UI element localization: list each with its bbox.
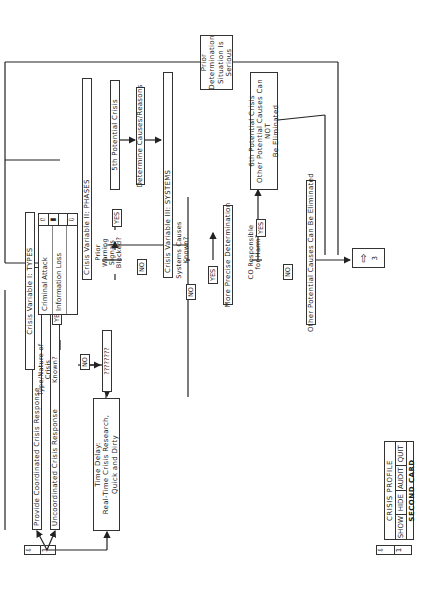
arrow-down-icon: ⇩ bbox=[25, 546, 41, 554]
yes-label-warning: YES bbox=[112, 209, 122, 227]
coordinated-response-label: Provide Coordinated Crisis Response bbox=[33, 387, 41, 526]
prior-det-line3: Situation Is bbox=[217, 41, 225, 84]
fifth-crisis-box: 5th Potential Crisis bbox=[110, 80, 120, 190]
decision-type-line3: Known? bbox=[52, 342, 59, 397]
decision-warning-line1: Prior Warning bbox=[95, 230, 109, 275]
decision-prior-warning: Prior Warning Signals Blocked? bbox=[95, 230, 124, 275]
variable-types-box: Crisis Variable I: TYPES bbox=[25, 212, 35, 370]
prior-det-line2: Determination bbox=[208, 35, 216, 89]
variable-phases-box: Crisis Variable II: PHASES bbox=[82, 78, 92, 280]
decision-systems-line2: Known? bbox=[183, 220, 190, 280]
sixth-crisis-line1: 6th Potential Crisis bbox=[248, 95, 256, 167]
variable-systems-box: Crisis Variable III: SYSTEMS bbox=[163, 72, 173, 278]
next-card-button[interactable]: ⇨ 3 bbox=[352, 248, 385, 268]
no-label-type: NO bbox=[80, 354, 90, 370]
fifth-crisis-label: 5th Potential Crisis bbox=[111, 99, 119, 171]
time-delay-line3: Quick and Dirty bbox=[111, 435, 119, 494]
variable-phases-label: Crisis Variable II: PHASES bbox=[83, 179, 91, 275]
flowchart-canvas: ⇩ 1 Provide Coordinated Crisis Response … bbox=[0, 0, 440, 590]
types-scrollbar[interactable]: ⇧ ▮ ⇩ bbox=[39, 214, 77, 226]
hide-button[interactable]: HIDE bbox=[396, 490, 406, 515]
scroll-down-icon[interactable]: ⇩ bbox=[67, 214, 77, 225]
prior-det-line1: Prior bbox=[200, 54, 208, 72]
arrow-down-icon: ⇩ bbox=[377, 546, 395, 554]
quit-button[interactable]: QUIT bbox=[396, 442, 406, 466]
sixth-crisis-line2: Other Potential Causes Can NOT bbox=[256, 73, 272, 189]
scroll-up-icon[interactable]: ⇧ bbox=[39, 214, 49, 225]
arrow-right-icon: ⇨ bbox=[358, 253, 371, 263]
scroll-thumb[interactable]: ▮ bbox=[49, 214, 59, 225]
yes-label-co: YES bbox=[256, 219, 266, 237]
time-delay-line1: Time Delay: bbox=[94, 442, 102, 487]
start-nav-button[interactable]: ⇩ 1 bbox=[24, 545, 56, 555]
decision-warning-line3: Blocked? bbox=[116, 230, 123, 275]
variable-types-label: Crisis Variable I: TYPES bbox=[26, 247, 34, 334]
types-list-item[interactable]: Criminal Attack bbox=[39, 226, 53, 314]
variable-systems-label: Crisis Variable III: SYSTEMS bbox=[164, 170, 172, 273]
prior-determination-box: Prior Determination Situation Is Serious bbox=[200, 35, 233, 90]
audit-button[interactable]: AUDIT bbox=[396, 466, 406, 491]
yes-label-systems: YES bbox=[208, 266, 218, 284]
eliminated-label: Other Potential Causes Can Be Eliminated bbox=[307, 173, 315, 332]
next-card-number: 3 bbox=[371, 256, 379, 261]
uncoordinated-response-label: Uncoordinated Crisis Response bbox=[51, 409, 59, 526]
card-nav-button[interactable]: ⇩ 1 bbox=[376, 545, 412, 555]
card-title: CRISIS PROFILE bbox=[385, 442, 396, 539]
no-label-systems: NO bbox=[186, 284, 196, 300]
crisis-profile-card: CRISIS PROFILE SHOW HIDE AUDIT QUIT SECO… bbox=[384, 441, 414, 540]
determine-causes-label: Determine Causes/Reasons bbox=[136, 84, 144, 187]
decision-type-nature: Type/Nature of Crisis Known? bbox=[38, 342, 59, 397]
no-label-warning: NO bbox=[137, 259, 147, 275]
determine-causes-box: Determine Causes/Reasons bbox=[136, 87, 145, 185]
prior-det-line4: Serious bbox=[225, 48, 233, 76]
types-list-item[interactable] bbox=[67, 226, 80, 314]
nav-number: 1 bbox=[41, 546, 56, 554]
sixth-crisis-box: 6th Potential Crisis Other Potential Cau… bbox=[250, 72, 278, 190]
types-listbox[interactable]: Criminal Attack Information Loss ⇧ ▮ ⇩ bbox=[38, 213, 78, 315]
sixth-crisis-line3: Be Eliminated bbox=[272, 105, 280, 158]
types-list-item[interactable]: Information Loss bbox=[53, 226, 67, 314]
unknown-type-box: ???????? bbox=[102, 330, 112, 392]
more-precise-box: More Precise Determination bbox=[223, 205, 233, 305]
show-button[interactable]: SHOW bbox=[396, 515, 406, 540]
time-delay-box: Time Delay: Real-Time Crisis Research, Q… bbox=[93, 398, 120, 531]
card-subtitle: SECOND CARD bbox=[407, 442, 417, 539]
card-buttons: SHOW HIDE AUDIT QUIT bbox=[396, 442, 407, 539]
time-delay-line2: Real-Time Crisis Research, bbox=[102, 415, 110, 515]
eliminated-box: Other Potential Causes Can Be Eliminated bbox=[306, 180, 316, 325]
card-nav-number: 1 bbox=[395, 546, 412, 554]
decision-systems-causes: Systems Causes Known? bbox=[176, 220, 190, 280]
no-label-co: NO bbox=[283, 264, 293, 280]
more-precise-label: More Precise Determination bbox=[224, 203, 232, 308]
